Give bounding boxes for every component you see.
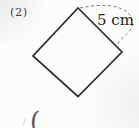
- side-length-label: 5 cm: [97, 11, 134, 29]
- worksheet-figure: (2) 5 cm (: [0, 0, 139, 128]
- answer-open-paren: (: [29, 108, 40, 128]
